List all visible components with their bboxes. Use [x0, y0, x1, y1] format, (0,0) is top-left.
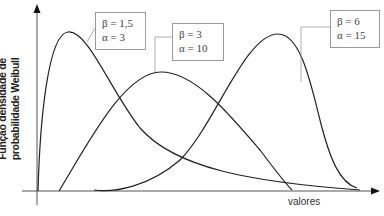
y-axis-label-line-2: probabilidade Weibull	[9, 34, 22, 184]
legend-box-2: β = 3 α = 10	[172, 23, 224, 61]
legend-beta-3: β = 6	[337, 14, 373, 28]
x-axis-arrow-icon	[371, 188, 380, 195]
curve-beta-3-alpha-10	[59, 72, 292, 191]
legend-alpha-1: α = 3	[102, 30, 139, 44]
legend-box-1: β = 1,5 α = 3	[95, 12, 146, 50]
legend-box-3: β = 6 α = 15	[330, 10, 380, 48]
leader-line-1	[87, 28, 95, 42]
legend-alpha-3: α = 15	[337, 28, 373, 42]
legend-beta-1: β = 1,5	[102, 16, 139, 30]
curve-beta-6-alpha-15	[94, 34, 357, 191]
y-axis-label: Função densidade de probabilidade Weibul…	[0, 34, 26, 184]
y-axis-arrow-icon	[34, 4, 41, 13]
x-axis-label: valores	[288, 196, 320, 207]
y-axis-label-line-1: Função densidade de	[0, 34, 9, 184]
leader-line-2	[155, 37, 172, 72]
legend-alpha-2: α = 10	[179, 41, 217, 55]
legend-beta-2: β = 3	[179, 27, 217, 41]
leader-line-3	[301, 27, 330, 82]
